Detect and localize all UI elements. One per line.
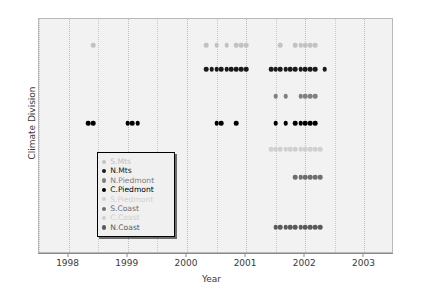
data-point xyxy=(318,147,323,152)
data-point xyxy=(283,121,288,126)
legend-item-label: S.Coast xyxy=(110,204,139,213)
x-tick-mark xyxy=(67,253,68,257)
data-point xyxy=(219,121,224,126)
legend-item-label: C.Coast xyxy=(110,213,139,222)
data-point xyxy=(244,67,249,72)
data-point xyxy=(273,94,278,99)
data-point xyxy=(308,121,313,126)
legend-item-s-piedmont[interactable]: S.Piedmont xyxy=(102,195,169,204)
data-point xyxy=(293,121,298,126)
data-point xyxy=(278,43,283,48)
legend-marker-icon xyxy=(102,197,106,201)
gridline-major xyxy=(69,19,71,252)
data-point xyxy=(278,147,283,152)
legend-marker-icon xyxy=(102,207,106,211)
data-point xyxy=(278,225,283,230)
gridline-major xyxy=(305,19,307,252)
x-tick-mark xyxy=(363,253,364,257)
legend-item-c-piedmont[interactable]: C.Piedmont xyxy=(102,185,169,194)
data-point xyxy=(308,225,313,230)
data-point xyxy=(130,121,135,126)
x-tick-mark xyxy=(304,253,305,257)
legend-item-label: N.Coast xyxy=(110,223,140,232)
data-point xyxy=(234,43,239,48)
legend-item-label: N.Mts xyxy=(110,166,132,175)
legend-item-label: S.Mts xyxy=(110,157,131,166)
data-point xyxy=(308,67,313,72)
plot-panel xyxy=(38,18,393,253)
data-point xyxy=(313,67,318,72)
gridline-major xyxy=(364,19,366,252)
data-point xyxy=(293,147,298,152)
data-point xyxy=(308,147,313,152)
data-point xyxy=(293,175,298,180)
x-tick-label: 2001 xyxy=(234,258,257,268)
legend: S.MtsN.MtsN.PiedmontC.PiedmontS.Piedmont… xyxy=(97,152,175,237)
legend-marker-icon xyxy=(102,178,106,182)
data-point xyxy=(313,43,318,48)
data-point xyxy=(244,43,249,48)
data-point xyxy=(313,94,318,99)
y-axis-label: Climate Division xyxy=(27,43,37,203)
x-tick-label: 2000 xyxy=(174,258,197,268)
legend-marker-icon xyxy=(102,188,106,192)
x-tick-label: 1998 xyxy=(56,258,79,268)
x-tick-label: 1999 xyxy=(115,258,138,268)
gridline-minor xyxy=(217,19,219,252)
data-point xyxy=(219,67,224,72)
data-point xyxy=(293,43,298,48)
data-point xyxy=(136,121,141,126)
legend-item-n-piedmont[interactable]: N.Piedmont xyxy=(102,176,169,185)
legend-marker-icon xyxy=(102,160,106,164)
legend-item-n-coast[interactable]: N.Coast xyxy=(102,223,169,232)
data-point xyxy=(322,67,327,72)
legend-item-label: S.Piedmont xyxy=(110,195,153,204)
data-point xyxy=(283,94,288,99)
data-point xyxy=(91,43,96,48)
legend-item-s-coast[interactable]: S.Coast xyxy=(102,204,169,213)
legend-marker-icon xyxy=(102,169,106,173)
legend-item-s-mts[interactable]: S.Mts xyxy=(102,157,169,166)
data-point xyxy=(214,43,219,48)
data-point xyxy=(234,121,239,126)
data-point xyxy=(308,94,313,99)
legend-item-label: N.Piedmont xyxy=(110,176,154,185)
data-point xyxy=(318,225,323,230)
data-point xyxy=(318,175,323,180)
legend-item-label: C.Piedmont xyxy=(110,185,154,194)
x-tick-mark xyxy=(126,253,127,257)
legend-marker-icon xyxy=(102,216,106,220)
legend-item-c-coast[interactable]: C.Coast xyxy=(102,213,169,222)
legend-marker-icon xyxy=(102,225,106,229)
x-tick-mark xyxy=(185,253,186,257)
x-tick-label: 2002 xyxy=(293,258,316,268)
data-point xyxy=(204,67,209,72)
gridline-major xyxy=(246,19,248,252)
scatter-chart-figure: 199819992000200120022003 Year Climate Di… xyxy=(0,0,423,293)
x-axis-line xyxy=(38,253,393,254)
data-point xyxy=(308,43,313,48)
data-point xyxy=(293,225,298,230)
data-point xyxy=(308,175,313,180)
x-tick-label: 2003 xyxy=(352,258,375,268)
data-point xyxy=(91,121,96,126)
gridline-minor xyxy=(276,19,278,252)
gridline-major xyxy=(187,19,189,252)
x-tick-mark xyxy=(245,253,246,257)
data-point xyxy=(293,67,298,72)
data-point xyxy=(278,67,283,72)
x-axis-label: Year xyxy=(0,274,423,284)
gridline-minor xyxy=(39,19,41,252)
data-point xyxy=(273,121,278,126)
data-point xyxy=(313,121,318,126)
data-point xyxy=(204,43,209,48)
legend-item-n-mts[interactable]: N.Mts xyxy=(102,166,169,175)
data-point xyxy=(224,43,229,48)
data-point xyxy=(86,121,91,126)
gridline-minor xyxy=(335,19,337,252)
data-point xyxy=(234,67,239,72)
